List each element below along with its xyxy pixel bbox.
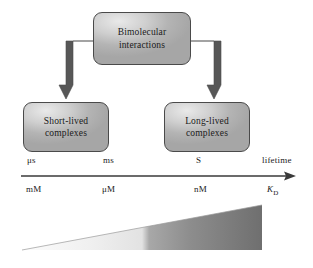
axis-tick-millimolar: mM [26, 184, 41, 194]
axis-tick-milliseconds: ms [103, 155, 114, 165]
axis-title-kd-sub: D [273, 189, 278, 197]
diagram-canvas: Bimolecular interactions Short-lived com… [0, 0, 313, 268]
left-elbow-arrow-icon [59, 41, 93, 99]
node-long-line2: complexes [186, 128, 228, 138]
axis-tick-micromolar: μM [102, 184, 115, 194]
node-root-line1: Bimolecular [118, 27, 167, 37]
node-long-lived-complexes[interactable]: Long-lived complexes [164, 102, 250, 152]
lifetime-axis-arrow-icon [21, 171, 296, 180]
node-short-label: Short-lived complexes [40, 115, 92, 139]
node-root-label: Bimolecular interactions [114, 26, 171, 50]
node-long-label: Long-lived complexes [181, 115, 233, 139]
axis-tick-microseconds: μs [27, 155, 36, 165]
affinity-gradient-wedge [22, 205, 262, 250]
node-short-lived-complexes[interactable]: Short-lived complexes [23, 102, 109, 152]
node-root-line2: interactions [119, 40, 165, 50]
right-elbow-arrow-icon [191, 41, 221, 99]
axis-title-lifetime: lifetime [262, 155, 292, 165]
node-bimolecular-interactions[interactable]: Bimolecular interactions [93, 12, 191, 65]
axis-tick-seconds: S [196, 155, 201, 165]
axis-title-kd: KD [267, 184, 278, 197]
node-long-line1: Long-lived [185, 116, 229, 126]
axis-tick-nanomolar: nM [194, 184, 207, 194]
node-short-line2: complexes [45, 128, 87, 138]
node-short-line1: Short-lived [44, 116, 88, 126]
